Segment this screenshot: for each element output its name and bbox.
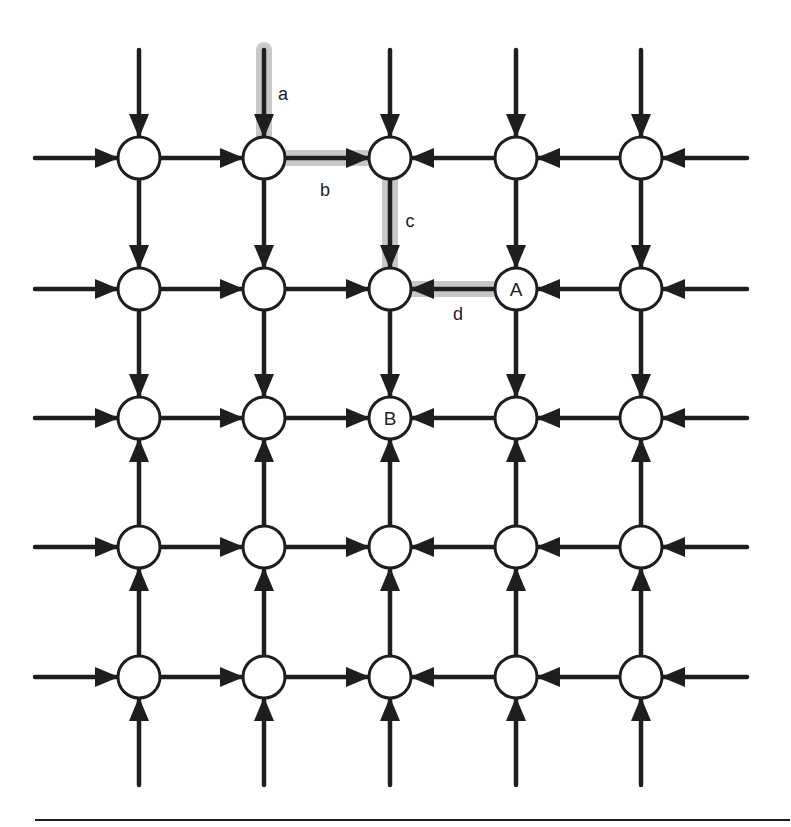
- node: [620, 397, 662, 439]
- node: [243, 137, 285, 179]
- node: [243, 268, 285, 310]
- node-circle: [620, 526, 662, 568]
- node: [620, 268, 662, 310]
- node-circle: [495, 397, 537, 439]
- node-circle: [118, 656, 160, 698]
- node-circle: [620, 656, 662, 698]
- node: [118, 137, 160, 179]
- node: [243, 526, 285, 568]
- node: [620, 526, 662, 568]
- node-A: A: [495, 268, 537, 310]
- node: [243, 656, 285, 698]
- node: [118, 397, 160, 439]
- node-circle: [118, 526, 160, 568]
- edge-label-b: b: [320, 180, 330, 200]
- node-circle: [369, 137, 411, 179]
- edge-label-c: c: [406, 211, 415, 231]
- node: [620, 137, 662, 179]
- node-circle: [369, 268, 411, 310]
- node-circle: [243, 137, 285, 179]
- node-circle: [243, 526, 285, 568]
- node-circle: [118, 397, 160, 439]
- node: [243, 397, 285, 439]
- node-circle: [243, 397, 285, 439]
- node: [369, 526, 411, 568]
- node-circle: [620, 268, 662, 310]
- node-circle: [495, 137, 537, 179]
- node-circle: [369, 526, 411, 568]
- node-label: A: [510, 279, 523, 300]
- node-B: B: [369, 397, 411, 439]
- node: [369, 268, 411, 310]
- node: [369, 137, 411, 179]
- node-circle: [243, 656, 285, 698]
- edge-label-a: a: [278, 84, 289, 104]
- node-circle: [495, 656, 537, 698]
- node: [118, 526, 160, 568]
- node: [118, 656, 160, 698]
- node: [495, 656, 537, 698]
- node-circle: [620, 397, 662, 439]
- grid-network-diagram: AB abcd: [0, 0, 791, 827]
- node-circle: [118, 137, 160, 179]
- node-label: B: [384, 408, 397, 429]
- node: [369, 656, 411, 698]
- node: [495, 137, 537, 179]
- node: [118, 268, 160, 310]
- node-circle: [620, 137, 662, 179]
- node: [495, 397, 537, 439]
- edge-label-d: d: [453, 304, 463, 324]
- node-circle: [243, 268, 285, 310]
- node-circle: [495, 526, 537, 568]
- node-circle: [369, 656, 411, 698]
- node: [495, 526, 537, 568]
- node: [620, 656, 662, 698]
- node-circle: [118, 268, 160, 310]
